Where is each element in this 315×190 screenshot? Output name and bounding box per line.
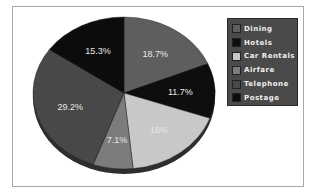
legend-label: Car Rentals <box>244 52 295 60</box>
legend-label: Airfare <box>244 66 275 74</box>
legend-label: Telephone <box>244 80 289 88</box>
slice-percent-label: 18% <box>150 125 168 135</box>
legend-swatch <box>232 38 241 47</box>
legend-item-car-rentals: Car Rentals <box>232 50 297 64</box>
legend-item-dining: Dining <box>232 22 297 36</box>
legend-label: Postage <box>244 94 279 102</box>
legend-label: Hotels <box>244 39 272 47</box>
legend-label: Dining <box>244 25 273 33</box>
legend-item-airfare: Airfare <box>232 63 297 77</box>
slice-percent-label: 15.3% <box>85 46 111 56</box>
legend-item-telephone: Telephone <box>232 77 297 91</box>
legend-item-hotels: Hotels <box>232 36 297 50</box>
legend-swatch <box>232 80 241 89</box>
legend-swatch <box>232 24 241 33</box>
legend-item-postage: Postage <box>232 91 297 105</box>
slice-percent-label: 11.7% <box>168 87 193 97</box>
legend-swatch <box>232 66 241 75</box>
legend-swatch <box>232 52 241 61</box>
legend-swatch <box>232 93 241 102</box>
slice-percent-label: 7.1% <box>107 135 128 145</box>
slice-percent-label: 29.2% <box>57 102 83 112</box>
slice-percent-label: 18.7% <box>143 49 169 59</box>
chart-legend: Dining Hotels Car Rentals Airfare Teleph… <box>227 18 298 106</box>
